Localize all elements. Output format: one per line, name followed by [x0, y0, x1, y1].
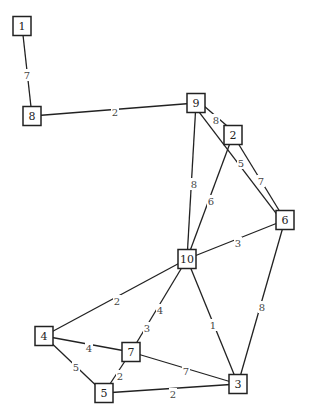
edge-weight-label: 6 — [208, 196, 214, 207]
node-label: 8 — [29, 110, 36, 123]
nodes-layer: 18926104753 — [13, 17, 294, 403]
node-2: 2 — [224, 126, 242, 145]
edge-weight-label: 4 — [86, 343, 92, 354]
node-6: 6 — [276, 211, 294, 230]
edges-layer — [22, 26, 285, 393]
graph-diagram: 728578632431845272 18926104753 — [0, 0, 314, 420]
edge-weight-label: 8 — [191, 179, 197, 190]
node-3: 3 — [229, 375, 247, 394]
node-label: 4 — [41, 330, 48, 343]
edge-weight-label: 2 — [170, 389, 176, 400]
node-1: 1 — [13, 17, 31, 36]
edge-weight-label: 8 — [213, 115, 219, 126]
node-4: 4 — [35, 327, 53, 346]
edge-weight-label: 8 — [259, 302, 265, 313]
edge-weight-label: 2 — [114, 296, 120, 307]
node-7: 7 — [122, 343, 140, 362]
edge-weight-label: 3 — [235, 238, 241, 249]
node-label: 2 — [230, 129, 237, 142]
edge-weight-label: 3 — [144, 323, 150, 334]
edge-weight-label: 5 — [73, 362, 79, 373]
node-10: 10 — [178, 250, 196, 269]
edge-weight-label: 2 — [112, 107, 118, 118]
node-label: 7 — [128, 346, 135, 359]
edge-weight-label: 7 — [258, 176, 264, 187]
node-8: 8 — [23, 107, 41, 126]
edge-weight-label: 7 — [183, 366, 189, 377]
node-label: 10 — [180, 253, 194, 266]
node-label: 6 — [282, 214, 289, 227]
edge-weight-label: 5 — [238, 158, 244, 169]
node-label: 1 — [19, 20, 26, 33]
node-label: 9 — [193, 97, 200, 110]
edge-weight-label: 1 — [210, 320, 216, 331]
node-label: 3 — [235, 378, 242, 391]
edge-weight-label: 2 — [117, 371, 123, 382]
node-label: 5 — [101, 387, 108, 400]
node-9: 9 — [187, 94, 205, 113]
node-5: 5 — [95, 384, 113, 403]
edge-weight-label: 4 — [157, 305, 163, 316]
edge-weight-label: 7 — [24, 70, 30, 81]
